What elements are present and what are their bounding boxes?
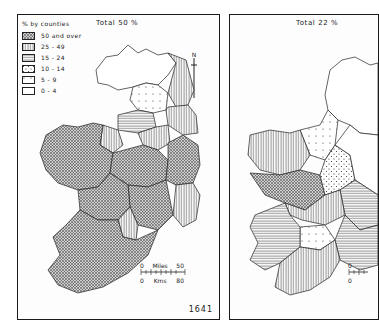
county-dublin-meath xyxy=(166,135,200,185)
scale-miles-start: 0 xyxy=(140,262,144,269)
map-panel-left: % by counties 50 and over 25 - 49 15 - 2… xyxy=(17,14,220,320)
scale-miles-start: 0 xyxy=(348,262,368,269)
figure-number: 1641 xyxy=(189,305,213,314)
scale-kms-start: 0 xyxy=(348,277,368,284)
county-down xyxy=(166,105,198,135)
scale-ruler-icon xyxy=(140,269,186,276)
scale-bar: 0 0 xyxy=(348,262,368,284)
scale-kms-label: Kms xyxy=(154,277,167,284)
scale-bar: 0 Miles 50 0 Kms 80 xyxy=(140,262,186,284)
scale-miles-label: Miles xyxy=(152,262,167,269)
county-mayo xyxy=(248,130,310,175)
county-mayo-galway xyxy=(40,123,113,190)
ireland-map-left xyxy=(18,15,218,318)
county-donegal xyxy=(96,45,176,90)
scale-miles-end: 50 xyxy=(176,262,184,269)
scale-kms-end: 80 xyxy=(176,277,184,284)
scale-kms-start: 0 xyxy=(140,277,144,284)
county-tyrone xyxy=(130,83,168,113)
scale-ruler-icon xyxy=(348,269,368,276)
county-wicklow-wexford xyxy=(173,183,200,227)
map-panel-right: Total 22 % 0 0 xyxy=(229,14,379,320)
